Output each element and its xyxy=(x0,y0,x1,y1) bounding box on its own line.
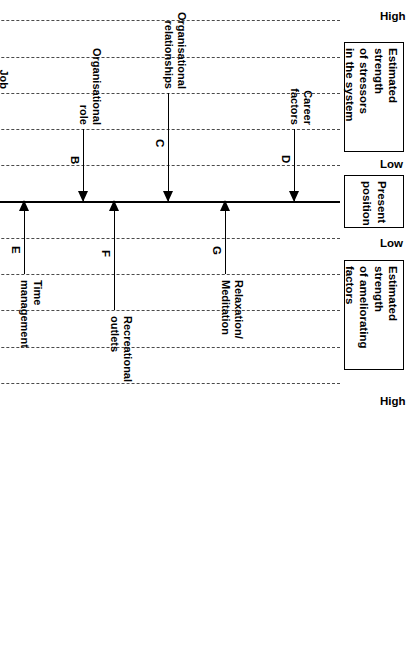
stressor-arrow-C-shaft xyxy=(168,93,169,201)
scale-label-left-high: High xyxy=(380,9,406,23)
callout-stressors-line2: of stressors xyxy=(357,48,371,146)
ameliorating-label-F-line2: outlets xyxy=(108,316,121,408)
stressor-label-B-line1: Organisational xyxy=(90,26,103,125)
ameliorating-label-E-line1: Time xyxy=(31,280,44,376)
ameliorating-arrow-G-shaft xyxy=(225,201,226,274)
stressor-label-C: Organisational relationships xyxy=(162,0,188,89)
ameliorating-label-F-line1: Recreational xyxy=(121,316,134,408)
ameliorating-arrow-E-head xyxy=(20,200,30,211)
callout-stressors-line1: Estimated strength xyxy=(371,48,400,146)
stressor-arrow-C-head xyxy=(164,191,174,202)
stressor-label-B: Organisational role xyxy=(77,26,103,125)
stressor-label-A: Job factors xyxy=(0,22,10,89)
stressor-label-C-line2: relationships xyxy=(162,0,175,89)
ameliorating-arrow-E-shaft xyxy=(24,201,25,274)
ameliorating-label-G-line1: Relaxation/ xyxy=(232,280,245,364)
scale-label-left-high-text: High xyxy=(380,10,406,22)
callout-present-position: Present position xyxy=(344,175,404,228)
scale-label-right-low: Low xyxy=(380,236,403,250)
callout-stressors: Estimated strength of stressors in the s… xyxy=(344,42,404,152)
ameliorating-arrow-G-head xyxy=(221,200,231,211)
ameliorating-arrow-F-head xyxy=(110,200,120,211)
stressor-label-C-line1: Organisational xyxy=(175,0,188,89)
stressor-arrow-B-letter: B xyxy=(69,156,81,164)
stressor-arrow-D-head xyxy=(290,191,300,202)
ameliorating-arrow-E: E xyxy=(24,201,25,274)
stress-balance-diagram: High Estimated strength of stressors in … xyxy=(0,0,408,660)
callout-stressors-line3: in the system xyxy=(343,48,357,146)
scale-label-right-low-text: Low xyxy=(380,237,403,249)
scale-label-left-low: Low xyxy=(380,157,403,171)
ameliorating-label-F: Recreational outlets xyxy=(108,316,134,408)
ameliorating-label-G-line2: Meditation xyxy=(219,280,232,364)
gridline-right-1 xyxy=(0,238,340,239)
gridline-right-2 xyxy=(0,274,340,275)
gridline-right-5 xyxy=(0,383,340,384)
stressor-arrow-B-head xyxy=(79,191,89,202)
stressor-label-D: Career factors xyxy=(288,49,314,125)
gridline-left-2 xyxy=(0,129,340,130)
ameliorating-arrow-F: F xyxy=(114,201,115,310)
stressor-arrow-C: C xyxy=(168,93,169,201)
stressor-arrow-C-letter: C xyxy=(154,139,166,147)
stressor-label-B-line2: role xyxy=(77,26,90,125)
callout-ameliorating-line2: of ameliorating xyxy=(357,266,371,364)
gridline-left-1 xyxy=(0,165,340,166)
figure-canvas: High Estimated strength of stressors in … xyxy=(0,0,408,660)
ameliorating-arrow-E-letter: E xyxy=(10,246,22,254)
callout-ameliorating: Estimated strength of ameliorating facto… xyxy=(344,260,404,370)
stressor-arrow-D: D xyxy=(294,129,295,201)
stressor-arrow-B: B xyxy=(83,129,84,201)
gridline-right-3 xyxy=(0,310,340,311)
ameliorating-label-E-line2: management xyxy=(18,280,31,376)
ameliorating-arrow-G-letter: G xyxy=(211,246,223,255)
callout-ameliorating-line3: factors xyxy=(343,266,357,364)
callout-present-position-text: Present position xyxy=(360,181,389,222)
stressor-label-D-line2: factors xyxy=(288,49,301,125)
ameliorating-arrow-G: G xyxy=(225,201,226,274)
stressor-label-A-line1: Job xyxy=(0,22,10,89)
ameliorating-label-G: Relaxation/ Meditation xyxy=(219,280,245,364)
stressor-arrow-D-letter: D xyxy=(280,155,292,163)
stressor-label-D-line1: Career xyxy=(301,49,314,125)
scale-label-right-high: High xyxy=(380,394,406,408)
ameliorating-arrow-F-letter: F xyxy=(100,250,112,257)
scale-label-right-high-text: High xyxy=(380,395,406,407)
callout-ameliorating-line1: Estimated strength xyxy=(371,266,400,364)
scale-label-left-low-text: Low xyxy=(380,158,403,170)
ameliorating-arrow-F-shaft xyxy=(114,201,115,310)
gridline-right-4 xyxy=(0,347,340,348)
ameliorating-label-E: Time management xyxy=(18,280,44,376)
